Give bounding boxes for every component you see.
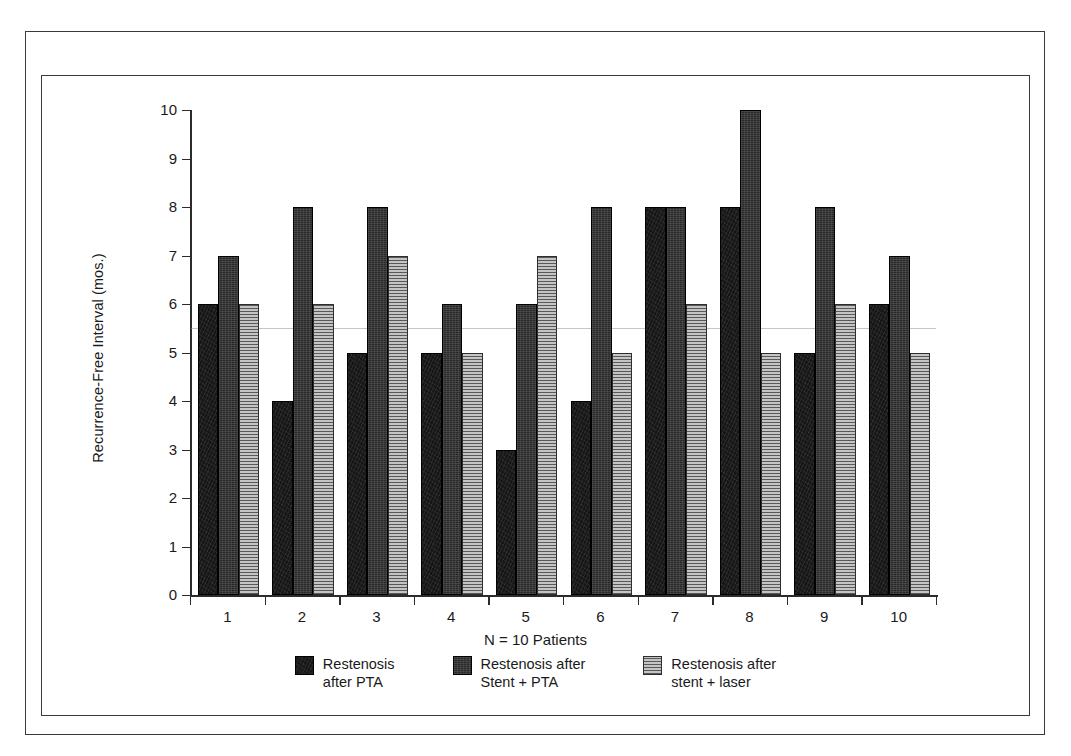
y-tick-6: 6 <box>182 304 190 305</box>
x-tick-label-5: 5 <box>506 608 546 625</box>
bar-series1-patient-6 <box>571 401 592 595</box>
x-tick-boundary-5 <box>563 596 564 605</box>
x-tick-label-9: 9 <box>804 608 844 625</box>
bar-series3-patient-10 <box>910 353 931 596</box>
legend-item-1[interactable]: Restenosis after PTA <box>295 655 395 691</box>
x-tick-boundary-8 <box>787 596 788 605</box>
legend-label-1: Restenosis after PTA <box>323 655 395 691</box>
y-tick-0: 0 <box>182 595 190 596</box>
figure-container: Recurrence-Free Interval (mos.) 01234567… <box>41 75 1030 716</box>
y-tick-3: 3 <box>182 450 190 451</box>
bar-series3-patient-6 <box>612 353 633 596</box>
y-tick-label-1: 1 <box>151 537 177 556</box>
bar-series2-patient-3 <box>367 207 388 595</box>
bar-series3-patient-4 <box>462 353 483 596</box>
y-tick-4: 4 <box>182 401 190 402</box>
plot-area: 012345678910 12345678910 <box>190 110 936 595</box>
y-tick-2: 2 <box>182 498 190 499</box>
y-tick-label-3: 3 <box>151 440 177 459</box>
bar-series3-patient-1 <box>239 304 260 595</box>
y-tick-8: 8 <box>182 207 190 208</box>
bar-series2-patient-1 <box>218 256 239 596</box>
y-axis-title: Recurrence-Free Interval (mos.) <box>90 208 106 508</box>
x-tick-boundary-1 <box>265 596 266 605</box>
series-2-swatch <box>453 656 472 675</box>
x-tick-boundary-2 <box>339 596 340 605</box>
y-tick-9: 9 <box>182 159 190 160</box>
bar-series1-patient-5 <box>496 450 517 596</box>
legend-item-2[interactable]: Restenosis after Stent + PTA <box>453 655 586 691</box>
bar-series1-patient-10 <box>869 304 890 595</box>
bar-series1-patient-1 <box>198 304 219 595</box>
x-tick-label-6: 6 <box>580 608 620 625</box>
y-tick-label-7: 7 <box>151 246 177 265</box>
x-tick-label-8: 8 <box>730 608 770 625</box>
legend-label-2: Restenosis after Stent + PTA <box>481 655 586 691</box>
x-tick-label-1: 1 <box>207 608 247 625</box>
x-tick-boundary-7 <box>712 596 713 605</box>
bar-series2-patient-9 <box>815 207 836 595</box>
bar-series3-patient-3 <box>388 256 409 596</box>
x-tick-label-4: 4 <box>431 608 471 625</box>
bar-series1-patient-8 <box>720 207 741 595</box>
y-tick-7: 7 <box>182 256 190 257</box>
x-tick-boundary-4 <box>488 596 489 605</box>
chart-legend: Restenosis after PTARestenosis after Ste… <box>41 655 1030 691</box>
x-tick-label-2: 2 <box>282 608 322 625</box>
bar-series2-patient-8 <box>740 110 761 595</box>
bar-series3-patient-9 <box>835 304 856 595</box>
y-tick-5: 5 <box>182 353 190 354</box>
legend-label-3: Restenosis after stent + laser <box>671 655 776 691</box>
bar-series2-patient-5 <box>516 304 537 595</box>
y-tick-label-10: 10 <box>151 100 177 119</box>
bar-series3-patient-8 <box>761 353 782 596</box>
y-tick-label-5: 5 <box>151 343 177 362</box>
y-tick-1: 1 <box>182 547 190 548</box>
bar-series2-patient-2 <box>293 207 314 595</box>
x-tick-label-3: 3 <box>357 608 397 625</box>
x-tick-label-7: 7 <box>655 608 695 625</box>
bar-series1-patient-3 <box>347 353 368 596</box>
x-tick-boundary-end <box>936 596 937 605</box>
y-tick-label-6: 6 <box>151 294 177 313</box>
x-tick-boundary-9 <box>861 596 862 605</box>
bar-series2-patient-7 <box>666 207 687 595</box>
x-tick-boundary-0 <box>190 596 191 605</box>
y-tick-label-8: 8 <box>151 197 177 216</box>
bar-series3-patient-2 <box>313 304 334 595</box>
legend-item-3[interactable]: Restenosis after stent + laser <box>643 655 776 691</box>
series-3-swatch <box>643 656 662 675</box>
x-tick-label-10: 10 <box>879 608 919 625</box>
y-tick-label-4: 4 <box>151 391 177 410</box>
y-tick-label-2: 2 <box>151 488 177 507</box>
bar-series2-patient-6 <box>591 207 612 595</box>
bar-series2-patient-10 <box>889 256 910 596</box>
bar-series1-patient-4 <box>421 353 442 596</box>
bar-series1-patient-9 <box>794 353 815 596</box>
x-tick-boundary-3 <box>414 596 415 605</box>
y-tick-10: 10 <box>182 110 190 111</box>
x-tick-boundary-6 <box>638 596 639 605</box>
y-axis-line <box>190 110 192 596</box>
y-tick-label-9: 9 <box>151 149 177 168</box>
page-root: Recurrence-Free Interval (mos.) 01234567… <box>0 0 1071 756</box>
sample-size-note: N = 10 Patients <box>41 631 1030 648</box>
bar-series1-patient-7 <box>645 207 666 595</box>
bar-series3-patient-5 <box>537 256 558 596</box>
bar-series1-patient-2 <box>272 401 293 595</box>
y-tick-label-0: 0 <box>151 585 177 604</box>
bar-series3-patient-7 <box>686 304 707 595</box>
bar-series2-patient-4 <box>442 304 463 595</box>
series-1-swatch <box>295 656 314 675</box>
